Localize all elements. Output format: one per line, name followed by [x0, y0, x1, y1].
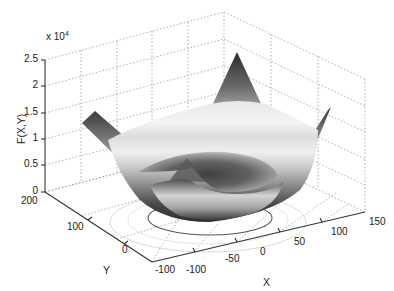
x-tick-label: -50	[225, 254, 239, 264]
y-axis-line	[45, 192, 152, 262]
x-tick-label: 0	[260, 247, 266, 257]
z-tick-label: 0.5	[8, 159, 38, 169]
x-tick-label: 150	[369, 217, 386, 227]
x-tick-label: -100	[186, 265, 206, 275]
surface-plot	[0, 0, 394, 291]
x-tick-label: 50	[294, 237, 305, 247]
z-tick-label: 2	[8, 80, 38, 90]
y-tick-label: 100	[67, 222, 84, 232]
y-tick-label: 0	[122, 245, 128, 255]
multiplier-base: x 10	[46, 31, 65, 42]
z-tick-label: 2.5	[8, 54, 38, 64]
multiplier-exponent: 4	[65, 30, 69, 37]
y-tick-label: -100	[155, 265, 175, 275]
z-axis-title: F(X,Y)	[16, 114, 27, 144]
z-multiplier: x 104	[46, 30, 69, 42]
x-axis-title: X	[263, 277, 270, 288]
surface	[82, 52, 331, 222]
x-tick-label: 100	[331, 227, 348, 237]
y-tick-label: 200	[21, 196, 38, 206]
y-axis-title: Y	[103, 265, 110, 276]
